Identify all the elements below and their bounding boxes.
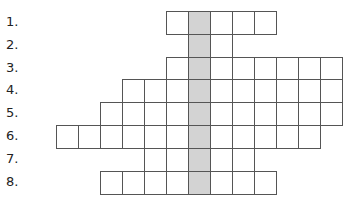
crossword-cell-shaded[interactable] — [188, 79, 211, 103]
crossword-cell-shaded[interactable] — [188, 125, 211, 149]
crossword-cell-shaded[interactable] — [188, 34, 211, 58]
crossword-cell[interactable] — [210, 102, 233, 126]
crossword-cell-shaded[interactable] — [188, 171, 211, 195]
crossword-cell[interactable] — [78, 125, 101, 149]
crossword-cell[interactable] — [166, 148, 189, 172]
clue-number: 7. — [6, 152, 18, 166]
crossword-cell[interactable] — [254, 125, 277, 149]
crossword-cell[interactable] — [144, 102, 167, 126]
crossword-cell[interactable] — [144, 171, 167, 195]
crossword-cell[interactable] — [276, 79, 299, 103]
crossword-cell-shaded[interactable] — [188, 102, 211, 126]
crossword-cell[interactable] — [166, 57, 189, 81]
crossword-cell[interactable] — [210, 11, 233, 35]
crossword-cell-shaded[interactable] — [188, 11, 211, 35]
crossword-cell[interactable] — [232, 125, 255, 149]
crossword-cell[interactable] — [144, 79, 167, 103]
crossword-cell[interactable] — [166, 102, 189, 126]
clue-number: 6. — [6, 129, 18, 143]
crossword-cell[interactable] — [254, 11, 277, 35]
crossword-cell[interactable] — [298, 125, 321, 149]
crossword-cell[interactable] — [122, 79, 145, 103]
crossword-cell[interactable] — [276, 125, 299, 149]
crossword-cell[interactable] — [232, 11, 255, 35]
clue-number: 8. — [6, 175, 18, 189]
clue-number: 2. — [6, 38, 18, 52]
clue-number: 3. — [6, 61, 18, 75]
crossword-cell[interactable] — [122, 171, 145, 195]
crossword-cell[interactable] — [144, 148, 167, 172]
crossword-cell[interactable] — [122, 125, 145, 149]
crossword-cell[interactable] — [298, 57, 321, 81]
crossword-cell[interactable] — [254, 57, 277, 81]
clue-number: 4. — [6, 83, 18, 97]
crossword-cell[interactable] — [166, 171, 189, 195]
crossword-cell[interactable] — [254, 79, 277, 103]
crossword-cell-shaded[interactable] — [188, 148, 211, 172]
crossword-cell[interactable] — [232, 57, 255, 81]
clue-number: 1. — [6, 15, 18, 29]
crossword-cell[interactable] — [210, 171, 233, 195]
crossword-cell[interactable] — [232, 79, 255, 103]
crossword-cell[interactable] — [210, 57, 233, 81]
crossword-cell[interactable] — [276, 102, 299, 126]
crossword-cell[interactable] — [232, 102, 255, 126]
crossword-cell[interactable] — [298, 79, 321, 103]
crossword-cell-shaded[interactable] — [188, 57, 211, 81]
crossword-cell[interactable] — [100, 102, 123, 126]
crossword-cell[interactable] — [232, 148, 255, 172]
crossword-cell[interactable] — [122, 102, 145, 126]
crossword-cell[interactable] — [320, 79, 343, 103]
crossword-cell[interactable] — [320, 57, 343, 81]
crossword-cell[interactable] — [232, 171, 255, 195]
crossword-cell[interactable] — [254, 171, 277, 195]
crossword-cell[interactable] — [166, 11, 189, 35]
crossword-cell[interactable] — [100, 125, 123, 149]
crossword-cell[interactable] — [144, 125, 167, 149]
crossword-cell[interactable] — [56, 125, 79, 149]
crossword-cell[interactable] — [210, 79, 233, 103]
crossword-cell[interactable] — [100, 171, 123, 195]
clue-number: 5. — [6, 106, 18, 120]
crossword-cell[interactable] — [210, 148, 233, 172]
crossword-cell[interactable] — [166, 125, 189, 149]
crossword-cell[interactable] — [254, 102, 277, 126]
crossword-cell[interactable] — [320, 102, 343, 126]
crossword-cell[interactable] — [210, 125, 233, 149]
crossword-cell[interactable] — [298, 102, 321, 126]
crossword-cell[interactable] — [276, 57, 299, 81]
crossword-cell[interactable] — [166, 79, 189, 103]
crossword-cell[interactable] — [210, 34, 233, 58]
